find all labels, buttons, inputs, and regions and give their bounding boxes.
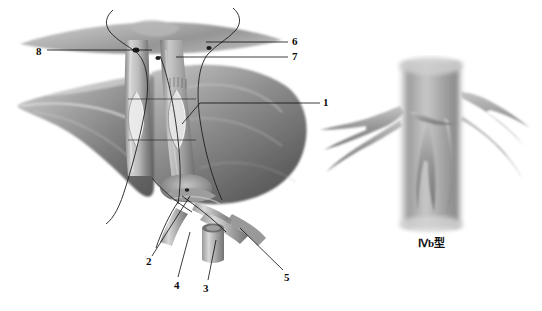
label-3: 3 (203, 283, 209, 294)
label-5: 5 (284, 272, 290, 283)
leader-4 (178, 232, 190, 277)
inset-duct-detail (320, 57, 530, 232)
label-6: 6 (292, 36, 298, 47)
diaphragm-group (20, 20, 282, 54)
label-4: 4 (174, 280, 180, 291)
label-8: 8 (36, 46, 42, 57)
label-1: 1 (323, 97, 329, 108)
leader-2 (152, 196, 190, 256)
label-7: 7 (292, 51, 298, 62)
anatomical-figure: 8 6 7 1 2 4 3 5 Ⅳb型 (0, 0, 542, 311)
inset-caption: Ⅳb型 (418, 234, 445, 250)
cut-duct-cylinder (202, 224, 224, 264)
label-2: 2 (146, 256, 152, 267)
illustration-canvas (0, 0, 542, 311)
